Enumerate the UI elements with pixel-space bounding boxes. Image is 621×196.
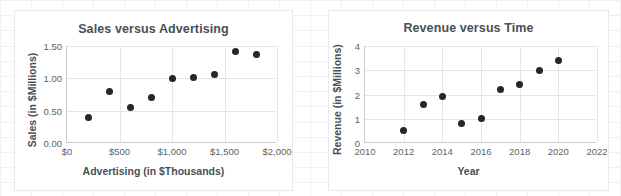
y-axis-tick-label: 1.00 [44,73,63,84]
x-axis-tick-label: $1,000 [157,146,186,157]
data-point[interactable] [439,93,446,100]
y-axis-tick-label: 1.50 [44,41,63,52]
x-gridline [120,46,121,142]
plot-right-edge [277,46,278,142]
x-axis-tick-label: $2,000 [262,146,291,157]
data-point[interactable] [420,101,427,108]
x-axis-tick-label: 2012 [393,146,414,157]
data-point[interactable] [211,71,218,78]
x-gridline [520,46,521,142]
plot-area: 0.000.501.001.50$0$500$1,000$1,500$2,000 [66,46,276,143]
data-point[interactable] [232,48,239,55]
plot-area: 012342010201220142016201820202022 [364,46,596,143]
x-axis-tick-label: 2016 [470,146,491,157]
spreadsheet-charts-screenshot: Sales versus Advertising Sales (in $Mill… [0,0,621,196]
y-axis-tick-label: 0.50 [44,105,63,116]
data-point[interactable] [190,74,197,81]
x-axis-tick-label: 2010 [354,146,375,157]
data-point[interactable] [400,127,407,134]
plot-top-edge [365,46,596,47]
x-axis-tick-label: 2020 [548,146,569,157]
x-axis-title: Year [329,165,608,177]
x-gridline [172,46,173,142]
data-point[interactable] [458,120,465,127]
data-point[interactable] [253,51,260,58]
y-axis-tick-label: 3 [355,65,360,76]
data-point[interactable] [169,75,176,82]
chart-revenue-versus-time[interactable]: Revenue versus Time Revenue (in $Million… [328,10,609,191]
x-axis-tick-label: $500 [109,146,130,157]
x-axis-tick-label: 2018 [509,146,530,157]
data-point[interactable] [148,94,155,101]
data-point[interactable] [497,86,504,93]
y-axis-tick-label: 2 [355,89,360,100]
x-gridline [481,46,482,142]
data-point[interactable] [106,88,113,95]
chart-title: Sales versus Advertising [15,22,292,36]
y-axis-title: Revenue (in $Millions) [331,45,343,155]
x-axis-tick-label: $1,500 [210,146,239,157]
data-point[interactable] [516,81,523,88]
plot-top-edge [67,46,276,47]
x-axis-tick-label: $0 [62,146,73,157]
x-axis-tick-label: 2022 [586,146,607,157]
data-point[interactable] [536,67,543,74]
x-gridline [225,46,226,142]
x-axis-tick-label: 2014 [432,146,453,157]
y-axis-tick-label: 0.00 [44,138,63,149]
chart-sales-versus-advertising[interactable]: Sales versus Advertising Sales (in $Mill… [14,10,293,191]
y-axis-tick-label: 1 [355,113,360,124]
data-point[interactable] [127,104,134,111]
chart-title: Revenue versus Time [329,21,608,35]
data-point[interactable] [85,114,92,121]
plot-right-edge [597,46,598,142]
x-axis-title: Advertising (in $Thousands) [15,165,292,177]
data-point[interactable] [478,115,485,122]
y-axis-tick-label: 4 [355,41,360,52]
data-point[interactable] [555,57,562,64]
y-axis-title: Sales (in $Millions) [26,45,38,155]
